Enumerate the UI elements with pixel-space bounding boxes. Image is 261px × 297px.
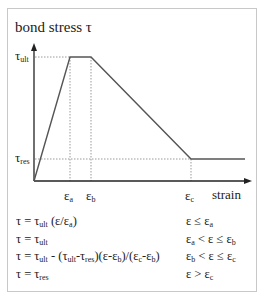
x-axis-title: strain <box>212 187 241 203</box>
tick-tau-ult: τult <box>15 48 29 64</box>
condition-4: ε > εc <box>186 267 213 282</box>
condition-2: εa < ε ≤ εb <box>186 232 236 247</box>
y-axis-title: bond stress τ <box>15 19 92 36</box>
tick-eps-b: εb <box>86 188 95 204</box>
tick-eps-c: εc <box>185 188 194 204</box>
tick-tau-res: τres <box>15 150 30 166</box>
condition-1: ε ≤ εa <box>186 214 213 229</box>
equation-1: τ = τult (ε/εa) <box>16 214 77 229</box>
guide-lines <box>35 57 191 181</box>
y-axis-arrow-icon <box>31 43 37 51</box>
condition-3: εb < ε ≤ εc <box>186 249 236 264</box>
equation-4: τ = τres <box>16 267 49 282</box>
x-axis-arrow-icon <box>244 178 252 184</box>
equation-3: τ = τult - (τult-τres)(ε-εb)/(εc-εb) <box>16 249 160 264</box>
equation-2: τ = τult <box>16 232 48 247</box>
tick-eps-a: εa <box>64 188 73 204</box>
bond-slip-curve <box>34 57 245 181</box>
